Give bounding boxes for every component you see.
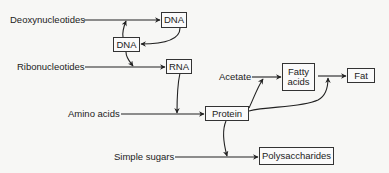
box-dna-middle: DNA [113, 37, 140, 52]
box-fatty-acids: Fatty acids [282, 63, 315, 91]
arrow-rna-translation [177, 73, 180, 113]
label-deoxynucleotides: Deoxynucleotides [10, 14, 85, 25]
box-rna: RNA [166, 59, 192, 74]
label-acetate: Acetate [219, 71, 251, 82]
box-polysaccharides: Polysaccharides [259, 147, 334, 165]
label-ribonucleotides: Ribonucleotides [17, 61, 85, 72]
label-simple-sugars: Simple sugars [114, 151, 174, 162]
arrow-dna-to-dna [141, 28, 180, 44]
box-fat-label: Fat [354, 71, 368, 81]
box-rna-label: RNA [169, 62, 189, 72]
arrow-dna-replication [123, 21, 126, 37]
box-dna-top-label: DNA [164, 15, 184, 25]
box-protein: Protein [205, 106, 249, 121]
arrow-protein-to-sugars [224, 121, 227, 156]
arrow-protein-to-acetate [249, 79, 263, 108]
box-dna-middle-label: DNA [116, 40, 136, 50]
box-polysaccharides-label: Polysaccharides [262, 151, 331, 161]
biosynthesis-diagram: Deoxynucleotides Ribonucleotides Amino a… [0, 0, 389, 173]
box-fatty-acids-label-line2: acids [287, 77, 309, 87]
box-fat: Fat [347, 68, 375, 83]
label-amino-acids: Amino acids [68, 108, 120, 119]
box-dna-top: DNA [161, 12, 187, 28]
box-protein-label: Protein [212, 109, 242, 119]
arrow-dna-transcription [126, 52, 133, 66]
